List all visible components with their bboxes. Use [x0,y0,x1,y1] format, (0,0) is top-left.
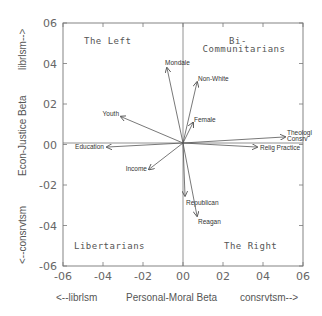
x-axis-right-label: consrvtsm--> [240,292,298,303]
y-tick-label: -06 [39,260,57,273]
vector-arrow-icon [183,143,257,147]
y-tick-label: 00 [43,139,57,152]
vector-label: Education [75,143,104,150]
vector-label: Consrv [287,135,308,142]
quadrant-label-libertarians: Libertarians [74,241,145,251]
x-tick-label: 04 [256,270,270,283]
y-axis-bottom-label: <--consrvtsm [17,206,28,264]
vector-label: Republican [186,199,219,207]
y-tick-label: -02 [39,179,57,192]
vector-label: Youth [103,110,120,117]
vector-reagan: Reagan [183,143,221,226]
x-tick-label: 00 [176,270,190,283]
quadrant-label-right: The Right [224,241,277,251]
quadrant-label-bicommunitarians-2: Communitarians [203,44,286,54]
vector-label: Relig Practice [260,144,300,152]
y-axis-top-label: librlsm--> [17,28,28,70]
x-axis-title: Personal-Moral Beta [126,292,218,303]
y-tick-label: 02 [43,98,57,111]
y-tick-label: 04 [43,58,57,71]
vector-arrow-icon [183,82,197,143]
y-tick-label: 06 [43,17,57,30]
vector-republican: Republican [183,143,219,207]
quadrant-label-left: The Left [84,36,131,46]
x-axis-left-label: <--librlsm [56,292,97,303]
y-axis-title: Econ-Justice Beta [17,95,28,176]
vector-relig-practice: Relig Practice [183,143,300,152]
x-tick-label: 02 [216,270,230,283]
vector-education: Education [75,143,183,150]
vectors-layer: MondaleNon-WhiteFemaleYouthEducationInco… [75,59,312,226]
vector-mondale: Mondale [165,59,190,143]
vector-label: Mondale [165,59,190,66]
vector-label: Female [194,116,216,123]
vector-arrow-icon [107,143,183,147]
vector-income: Income [126,143,183,172]
vector-arrow-icon [149,143,183,169]
vector-arrow-icon [121,117,183,143]
x-tick-label: 06 [296,270,310,283]
x-tick-label: -04 [94,270,112,283]
vector-arrow-icon [167,68,183,143]
vector-label: Non-White [198,75,229,82]
vector-theologl-consrv: TheologlConsrv [183,129,312,143]
vector-non-white: Non-White [183,75,229,143]
vector-arrow-icon [183,137,285,143]
biplot-chart: -06-04-020002040606040200-02-04-06 The L… [0,0,322,316]
x-tick-label: -02 [134,270,152,283]
vector-youth: Youth [103,110,183,143]
vector-label: Reagan [198,218,221,226]
vector-arrow-icon [183,123,193,143]
y-tick-label: -04 [39,220,57,233]
vector-label: Income [126,165,148,172]
